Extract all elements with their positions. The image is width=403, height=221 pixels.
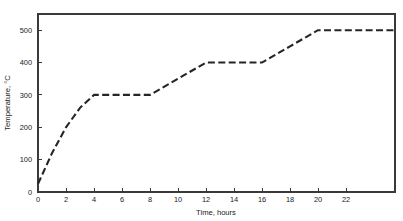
y-tick-label: 200: [20, 123, 32, 132]
x-tick-label: 0: [36, 195, 40, 204]
x-tick-label: 2: [64, 195, 68, 204]
y-tick-label: 300: [20, 91, 32, 100]
x-tick-label: 16: [258, 195, 266, 204]
y-tick-label: 400: [20, 58, 32, 67]
y-axis-title: Temperature, °C: [3, 75, 12, 131]
y-tick-label: 0: [28, 188, 32, 197]
x-tick-label: 10: [174, 195, 182, 204]
y-tick-label: 500: [20, 26, 32, 35]
x-tick-label: 20: [314, 195, 322, 204]
y-tick-label: 100: [20, 155, 32, 164]
plot-background: [38, 14, 395, 192]
x-axis-title: Time, hours: [196, 208, 236, 217]
x-tick-label: 12: [202, 195, 210, 204]
x-axis-tick-labels: 0246810121416182022: [36, 195, 350, 204]
chart-canvas: 0246810121416182022 0100200300400500 Tim…: [0, 0, 403, 221]
x-tick-label: 22: [342, 195, 350, 204]
x-tick-label: 8: [148, 195, 152, 204]
x-tick-label: 18: [286, 195, 294, 204]
x-tick-label: 14: [230, 195, 238, 204]
x-tick-label: 4: [92, 195, 96, 204]
y-axis-tick-labels: 0100200300400500: [20, 26, 32, 197]
chart-figure: 0246810121416182022 0100200300400500 Tim…: [0, 0, 403, 221]
x-tick-label: 6: [120, 195, 124, 204]
